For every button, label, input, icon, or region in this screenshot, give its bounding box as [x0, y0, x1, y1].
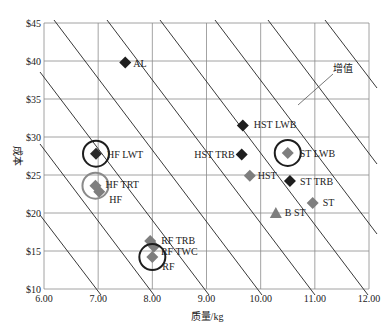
diamond-marker — [244, 170, 256, 182]
y-tick-label: $25 — [26, 170, 41, 181]
data-point: AL — [119, 57, 146, 69]
point-label: AL — [133, 58, 146, 69]
data-point: HST — [244, 170, 277, 182]
scatter-chart: 6.007.008.009.0010.0011.0012.00$10$15$20… — [0, 0, 392, 329]
x-tick-label: 11.00 — [304, 293, 326, 304]
y-tick-label: $45 — [26, 18, 41, 29]
data-point: HST TRB — [194, 148, 247, 160]
x-tick-label: 12.00 — [358, 293, 381, 304]
point-label: HF TRT — [105, 179, 138, 190]
x-axis-title: 质量/kg — [191, 311, 224, 322]
point-label: HST LWB — [254, 119, 297, 130]
diamond-marker — [307, 197, 319, 209]
data-point: ST — [307, 197, 335, 209]
point-label: HF — [109, 194, 122, 205]
x-tick-label: 7.00 — [89, 293, 107, 304]
y-tick-label: $40 — [26, 56, 41, 67]
y-tick-label: $35 — [26, 94, 41, 105]
axes: 6.007.008.009.0010.0011.0012.00$10$15$20… — [26, 18, 380, 305]
data-point: ST TRB — [284, 175, 334, 187]
y-tick-label: $20 — [26, 208, 41, 219]
triangle-marker — [270, 207, 282, 218]
annotation-label: 增值 — [333, 62, 353, 74]
point-label: HF LWT — [107, 149, 143, 160]
data-point: ST LWB — [275, 140, 336, 166]
x-tick-label: 10.00 — [249, 293, 272, 304]
diamond-marker — [284, 175, 296, 187]
data-point: HF LWT — [83, 141, 143, 167]
diamond-marker — [90, 148, 102, 160]
diamond-marker — [236, 148, 248, 160]
y-tick-label: $15 — [26, 246, 41, 257]
diamond-marker — [237, 120, 249, 132]
point-label: ST TRB — [300, 176, 334, 187]
data-points: ALHF LWTHF TRTHFRF TRBRF TWCRFHST LWBHST… — [82, 57, 335, 273]
diamond-marker — [146, 251, 158, 263]
data-point: HST LWB — [237, 119, 297, 132]
iso-value-line — [268, 20, 377, 164]
point-label: RF TWC — [161, 246, 198, 257]
point-label: B ST — [285, 207, 306, 218]
diamond-marker — [282, 147, 294, 159]
point-label: HST TRB — [194, 149, 235, 160]
x-tick-label: 8.00 — [144, 293, 162, 304]
diamond-marker — [119, 57, 131, 69]
iso-value-line — [40, 215, 101, 295]
y-tick-label: $10 — [26, 284, 41, 295]
point-label: HST — [258, 170, 277, 181]
y-tick-label: $30 — [26, 132, 41, 143]
point-label: ST — [323, 197, 335, 208]
y-axis-title: 成本 — [12, 146, 24, 166]
point-label: RF TRB — [161, 235, 195, 246]
point-label: RF — [162, 261, 175, 272]
x-tick-label: 9.00 — [198, 293, 216, 304]
x-tick-label: 6.00 — [35, 293, 53, 304]
value-annotation: 增值 — [298, 62, 353, 105]
data-point: B ST — [270, 207, 306, 218]
point-label: ST LWB — [300, 148, 336, 159]
